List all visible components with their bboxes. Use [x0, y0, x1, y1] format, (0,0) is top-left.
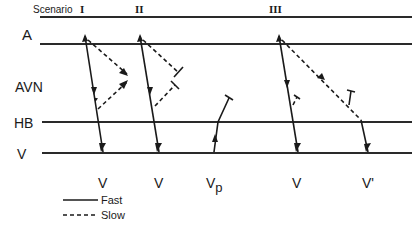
arrowhead-icon	[82, 34, 88, 42]
arrowhead-icon	[276, 34, 282, 42]
paced-label: Vp	[206, 175, 223, 195]
level-label-a: A	[22, 26, 32, 43]
scenario-i-trace	[82, 34, 128, 152]
ventricle-label-iii: V	[292, 175, 302, 191]
legend-slow-label: Slow	[101, 209, 125, 221]
scenario-i-label: I	[80, 3, 84, 15]
ventricle-label-iii-prime: V'	[362, 175, 374, 191]
ventricle-label-i: V	[98, 175, 108, 191]
conduction-block-icon	[349, 91, 351, 105]
retrograde-fast-line	[214, 98, 229, 152]
scenario-ii-label: II	[135, 3, 144, 15]
ladder-diagram: Scenario I II III A AVN HB V	[0, 0, 416, 226]
conduction-block-icon	[347, 90, 355, 92]
slow-pathway-line	[88, 40, 127, 74]
arrowhead-icon	[284, 80, 290, 88]
scenario-iii-label: III	[269, 3, 282, 15]
legend-fast-label: Fast	[101, 194, 122, 206]
scenario-label: Scenario	[33, 4, 73, 15]
fast-pathway-line	[140, 36, 159, 152]
paced-label-sub: p	[215, 180, 222, 195]
level-label-v: V	[17, 146, 27, 162]
conduction-block-icon	[171, 81, 179, 89]
scenario-iii-trace	[276, 34, 371, 152]
arrowhead-icon	[212, 134, 218, 142]
ventricle-label-ii: V	[154, 175, 164, 191]
scenario-ii-trace	[137, 34, 183, 152]
legend: Fast Slow	[63, 194, 125, 221]
slow-pathway-retro-line	[293, 97, 297, 105]
arrowhead-icon	[91, 87, 97, 95]
level-label-hb: HB	[14, 115, 33, 131]
arrowhead-icon	[137, 34, 143, 42]
level-label-avn: AVN	[15, 79, 43, 95]
slow-pathway-line	[282, 40, 361, 120]
slow-pathway-retro-line	[155, 85, 175, 106]
arrowhead-icon	[147, 87, 153, 95]
fast-pathway-line	[279, 36, 298, 152]
paced-beat-trace	[212, 95, 233, 152]
